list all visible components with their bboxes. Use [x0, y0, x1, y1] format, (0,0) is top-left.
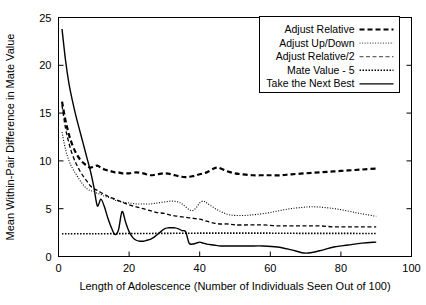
y-tick-label-25: 25: [39, 12, 51, 24]
legend-label-1: Adjust Up/Down: [279, 37, 354, 49]
x-axis-title: Length of Adolescence (Number of Individ…: [79, 280, 390, 292]
x-tick-label-100: 100: [402, 262, 420, 274]
y-tick-label-0: 0: [45, 251, 51, 263]
x-tick-label-40: 40: [194, 262, 206, 274]
chart-legend: Adjust RelativeAdjust Up/DownAdjust Rela…: [260, 17, 400, 93]
legend-label-2: Adjust Relative/2: [276, 50, 355, 62]
y-tick-label-10: 10: [39, 155, 51, 167]
series-line-adjust-relative-2: [62, 105, 376, 226]
y-axis-title: Mean Within-Pair Difference in Mate Valu…: [4, 34, 16, 241]
x-tick-label-20: 20: [123, 262, 135, 274]
series-line-mate-value-5: [62, 233, 376, 234]
legend-label-0: Adjust Relative: [284, 23, 354, 35]
line-chart: 0204060801000510152025 Adjust RelativeAd…: [0, 0, 426, 305]
legend-label-4: Take the Next Best: [266, 77, 354, 89]
series-line-adjust-relative: [62, 102, 376, 178]
y-tick-label-20: 20: [39, 59, 51, 71]
series-line-adjust-up-down: [62, 132, 376, 216]
y-tick-label-5: 5: [45, 203, 51, 215]
chart-figure: 0204060801000510152025 Adjust RelativeAd…: [0, 0, 426, 305]
x-tick-label-60: 60: [264, 262, 276, 274]
x-tick-label-0: 0: [55, 262, 61, 274]
legend-label-3: Mate Value - 5: [287, 64, 355, 76]
x-tick-label-80: 80: [335, 262, 347, 274]
y-tick-label-15: 15: [39, 107, 51, 119]
